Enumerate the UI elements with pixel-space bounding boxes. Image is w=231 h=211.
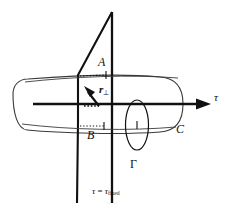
label-point-a: A (98, 56, 105, 68)
fixed-time-plane (77, 12, 112, 203)
label-point-b: B (87, 129, 94, 141)
label-loop-gamma: Γ (130, 158, 137, 170)
r-perp-subscript: ⊥ (103, 89, 109, 96)
label-surface-c: C (176, 123, 184, 135)
label-vector-r-perp: r⊥ (99, 84, 109, 96)
plane-eq-lhs: τ (92, 186, 95, 196)
plane-eq-rhs-subscript: fixed (108, 190, 119, 196)
physics-diagram-figure: A B C Γ τ r⊥ τ = τfixed (0, 0, 231, 211)
plane-eq-operator: = (97, 186, 102, 196)
diagram-canvas (0, 0, 231, 211)
label-axis-tau: τ (214, 92, 218, 103)
tau-axis (33, 99, 211, 110)
label-plane-equation: τ = τfixed (92, 187, 120, 197)
point-ticks (104, 71, 137, 130)
